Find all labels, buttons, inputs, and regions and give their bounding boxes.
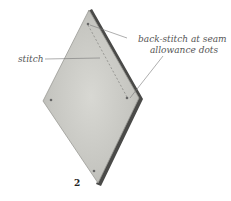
backstitch-leader-line-bottom	[130, 56, 163, 98]
backstitch-label-line2: allowance dots	[150, 45, 218, 55]
backstitch-label-line1: back-stitch at seam	[138, 34, 227, 44]
stitch-label: stitch	[18, 54, 44, 64]
figure-number: 2	[74, 178, 80, 188]
seam-dot-top	[87, 23, 90, 26]
seam-dot-left	[50, 99, 53, 102]
fabric-front-layer	[43, 10, 139, 183]
diamond-patch-illustration	[0, 0, 231, 201]
seam-dot-bottom	[93, 170, 96, 173]
seam-dot-right	[126, 97, 129, 100]
